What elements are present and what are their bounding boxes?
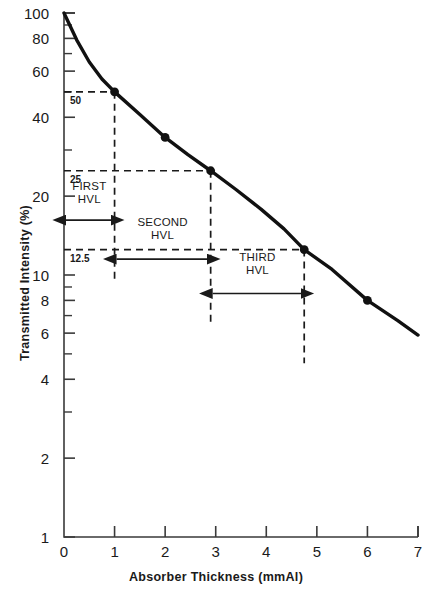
x-tick-label: 2: [161, 543, 169, 560]
intensity-level-label: 12.5: [70, 253, 89, 264]
x-tick-label: 6: [363, 543, 371, 560]
x-tick-label: 7: [414, 543, 422, 560]
hvl-annotation-line1: SECOND: [75, 216, 251, 229]
hvl-annotation: FIRSTHVL: [24, 180, 155, 206]
x-tick-label: 1: [110, 543, 118, 560]
figure-container: 124681020406080100 01234567 502512.5 FIR…: [0, 0, 432, 598]
hvl-annotation-line1: THIRD: [171, 251, 345, 264]
y-tick-label: 1: [0, 529, 49, 546]
x-tick-label: 3: [212, 543, 220, 560]
hvl-annotation-line2: HVL: [24, 193, 155, 206]
transmission-curve: [64, 13, 418, 335]
hvl-annotation-line2: HVL: [75, 229, 251, 242]
y-tick-label: 80: [0, 30, 49, 47]
hvl-annotation-line2: HVL: [171, 264, 345, 277]
y-tick-label: 40: [0, 109, 49, 126]
y-tick-label: 100: [0, 5, 49, 22]
x-tick-label: 0: [60, 543, 68, 560]
y-tick-label: 2: [0, 450, 49, 467]
hvl-annotation: SECONDHVL: [75, 216, 251, 242]
x-tick-label: 4: [262, 543, 270, 560]
hvl-annotation: THIRDHVL: [171, 251, 345, 277]
y-axis-title: Transmitted Intensity (%): [18, 173, 32, 393]
y-tick-label: 60: [0, 63, 49, 80]
intensity-level-label: 50: [70, 95, 81, 106]
x-axis-title: Absorber Thickness (mmAl): [0, 570, 432, 584]
hvl-annotation-line1: FIRST: [24, 180, 155, 193]
x-tick-label: 5: [313, 543, 321, 560]
attenuation-plot: [0, 0, 432, 598]
